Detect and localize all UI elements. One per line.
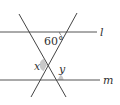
- angle-60-label: 60°: [44, 35, 64, 48]
- geometry-diagram: 60° l m x y: [0, 0, 120, 105]
- angle-y-label: y: [58, 63, 66, 76]
- transversal-2: [31, 13, 77, 97]
- angle-x-label: x: [34, 60, 41, 73]
- line-m-label: m: [103, 74, 113, 87]
- transversal-1: [19, 14, 66, 97]
- line-l-label: l: [100, 26, 104, 39]
